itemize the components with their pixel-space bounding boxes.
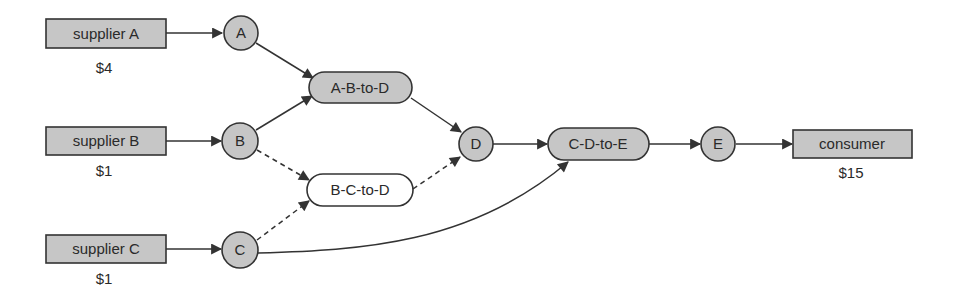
supplier-c-price: $1 [96, 270, 113, 287]
edge-a-to-a-b-to-d [256, 43, 313, 78]
producer-c-d-to-e-label: C-D-to-E [568, 135, 627, 152]
edge-c-to-c-d-to-e [258, 162, 568, 253]
supplier-b-price: $1 [96, 162, 113, 179]
good-c-label: C [235, 241, 246, 258]
edge-b-to-a-b-to-d [256, 96, 312, 130]
supplier-c: supplier C $1 [46, 235, 166, 287]
producer-b-c-to-d-label: B-C-to-D [330, 181, 389, 198]
edge-c-to-b-c-to-d [257, 201, 309, 240]
supply-chain-diagram: supplier A $4 supplier B $1 supplier C $… [0, 0, 955, 302]
good-b: B [222, 123, 258, 159]
good-c: C [222, 232, 258, 268]
supplier-b-label: supplier B [73, 132, 140, 149]
edge-b-c-to-d-to-d [413, 157, 460, 189]
good-a-label: A [236, 24, 246, 41]
producer-a-b-to-d: A-B-to-D [309, 72, 412, 103]
good-d-label: D [471, 135, 482, 152]
edge-a-b-to-d-to-d [411, 98, 461, 132]
supplier-c-label: supplier C [72, 240, 140, 257]
edge-b-to-b-c-to-d [257, 150, 309, 180]
good-b-label: B [235, 132, 245, 149]
good-e-label: E [713, 135, 723, 152]
good-d: D [459, 127, 493, 161]
consumer: consumer $15 [793, 130, 912, 181]
producer-a-b-to-d-label: A-B-to-D [331, 79, 390, 96]
consumer-price: $15 [838, 164, 863, 181]
supplier-a: supplier A $4 [46, 19, 166, 76]
good-e: E [701, 127, 735, 161]
supplier-a-label: supplier A [73, 25, 139, 42]
consumer-label: consumer [819, 135, 885, 152]
good-a: A [224, 16, 258, 50]
producer-b-c-to-d: B-C-to-D [307, 174, 413, 206]
supplier-b: supplier B $1 [46, 127, 166, 179]
producer-c-d-to-e: C-D-to-E [548, 128, 649, 160]
supplier-a-price: $4 [96, 59, 113, 76]
